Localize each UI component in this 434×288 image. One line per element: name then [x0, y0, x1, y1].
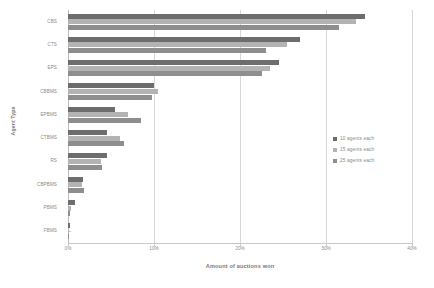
bar	[68, 165, 102, 170]
x-axis-tick-label: 20%	[225, 246, 255, 251]
bar	[68, 71, 262, 76]
legend-label: 10 agents each	[340, 136, 374, 141]
legend-label: 15 agents each	[340, 147, 374, 152]
legend-swatch-icon	[333, 159, 337, 163]
legend-swatch-icon	[333, 137, 337, 141]
bar	[68, 89, 158, 94]
legend: 10 agents each15 agents each25 agents ea…	[333, 133, 407, 166]
bar	[68, 182, 82, 187]
legend-swatch-icon	[333, 148, 337, 152]
bar	[68, 83, 154, 88]
bar	[68, 25, 339, 30]
bar-group	[68, 200, 412, 216]
bar-group	[68, 37, 412, 53]
bar	[68, 188, 84, 193]
bar	[68, 107, 115, 112]
bar-group	[68, 107, 412, 123]
bar-group	[68, 223, 412, 239]
y-axis-category-label: RS	[0, 158, 57, 163]
y-axis-category-label: CTBMS	[0, 135, 57, 140]
bar	[68, 177, 83, 182]
bar	[68, 206, 71, 211]
bar	[68, 141, 124, 146]
bar	[68, 14, 365, 19]
bar	[68, 118, 141, 123]
bar-group	[68, 177, 412, 193]
y-axis-category-labels: CBSCTSEPSCBBMSEPBMSCTBMSRSCBPBMSPBMSFBMS	[2, 10, 65, 243]
bar	[68, 112, 128, 117]
legend-item: 25 agents each	[333, 155, 407, 166]
bar	[68, 48, 266, 53]
x-axis-tick-label: 10%	[139, 246, 169, 251]
bar-group	[68, 14, 412, 30]
legend-item: 10 agents each	[333, 133, 407, 144]
y-axis-category-label: CBS	[0, 19, 57, 24]
x-axis-tick-label: 40%	[397, 246, 427, 251]
y-axis-category-label: EPS	[0, 65, 57, 70]
bar-group	[68, 83, 412, 99]
bar	[68, 66, 270, 71]
bar	[68, 42, 287, 47]
legend-item: 15 agents each	[333, 144, 407, 155]
bar	[68, 200, 75, 205]
legend-label: 25 agents each	[340, 158, 374, 163]
bar	[68, 19, 356, 24]
y-axis-category-label: FBMS	[0, 228, 57, 233]
bar	[68, 234, 69, 239]
x-axis-tick-label: 30%	[311, 246, 341, 251]
bar-chart: Agent Type CBSCTSEPSCBBMSEPBMSCTBMSRSCBP…	[0, 0, 434, 288]
x-axis-title: Amount of auctions won	[68, 263, 412, 269]
bar	[68, 60, 279, 65]
y-axis-category-label: PBMS	[0, 205, 57, 210]
bar	[68, 211, 70, 216]
bar-group	[68, 60, 412, 76]
bar	[68, 153, 107, 158]
bar	[68, 229, 69, 234]
bar	[68, 37, 300, 42]
bar	[68, 159, 101, 164]
bar	[68, 136, 120, 141]
x-axis-tick-label: 0%	[53, 246, 83, 251]
bar	[68, 130, 107, 135]
bar	[68, 95, 152, 100]
y-axis-category-label: CBBMS	[0, 89, 57, 94]
y-axis-category-label: CTS	[0, 42, 57, 47]
plot-area	[68, 10, 412, 243]
y-axis-category-label: CBPBMS	[0, 182, 57, 187]
gridline	[412, 10, 413, 243]
bar	[68, 223, 70, 228]
y-axis-category-label: EPBMS	[0, 112, 57, 117]
